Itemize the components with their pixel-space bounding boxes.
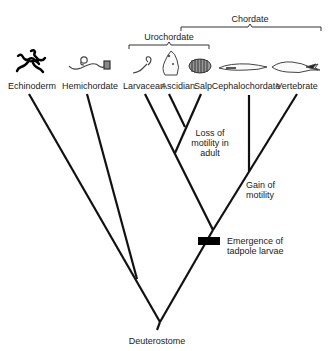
- echinoderm-icon: [17, 50, 45, 72]
- salp-icon: [189, 59, 211, 73]
- vertebrate-icon: [272, 62, 320, 73]
- event-loss-of-motility: Loss of motility in adult: [188, 128, 232, 158]
- branch-echinoderm: [29, 94, 160, 322]
- tree-branches: [29, 94, 297, 330]
- taxon-label-vertebrate: Vertebrate: [276, 81, 318, 91]
- group-label-urochordate: Urochordate: [144, 32, 194, 42]
- taxon-label-salp: Salp: [194, 81, 212, 91]
- ascidian-icon: [163, 51, 179, 75]
- larvacean-icon: [133, 57, 151, 73]
- group-label-chordate: Chordate: [231, 14, 268, 24]
- branch-root: [157, 322, 160, 330]
- tree-diagram: [0, 0, 335, 351]
- hemichordate-icon: [69, 57, 110, 69]
- taxon-label-echinoderm: Echinoderm: [8, 81, 56, 91]
- chordate-bracket: [181, 24, 321, 31]
- taxon-label-ascidian: Ascidian: [161, 81, 195, 91]
- taxon-label-cephalochordate: Cephalochordate: [212, 81, 281, 91]
- event-gain-of-motility: Gain of motility: [246, 180, 275, 200]
- tadpole-marker: [198, 237, 220, 245]
- taxon-label-hemichordate: Hemichordate: [62, 81, 118, 91]
- branch-ascidian: [169, 94, 185, 127]
- branch-vertebrate: [213, 94, 297, 230]
- event-tadpole-larvae: Emergence of tadpole larvae: [227, 236, 284, 256]
- cephalochordate-icon: [219, 64, 267, 70]
- branch-hemichordate: [87, 94, 137, 279]
- taxon-label-larvacean: Larvacean: [123, 81, 165, 91]
- urochordate-bracket: [129, 42, 209, 49]
- root-label-deuterostome: Deuterostome: [129, 336, 186, 346]
